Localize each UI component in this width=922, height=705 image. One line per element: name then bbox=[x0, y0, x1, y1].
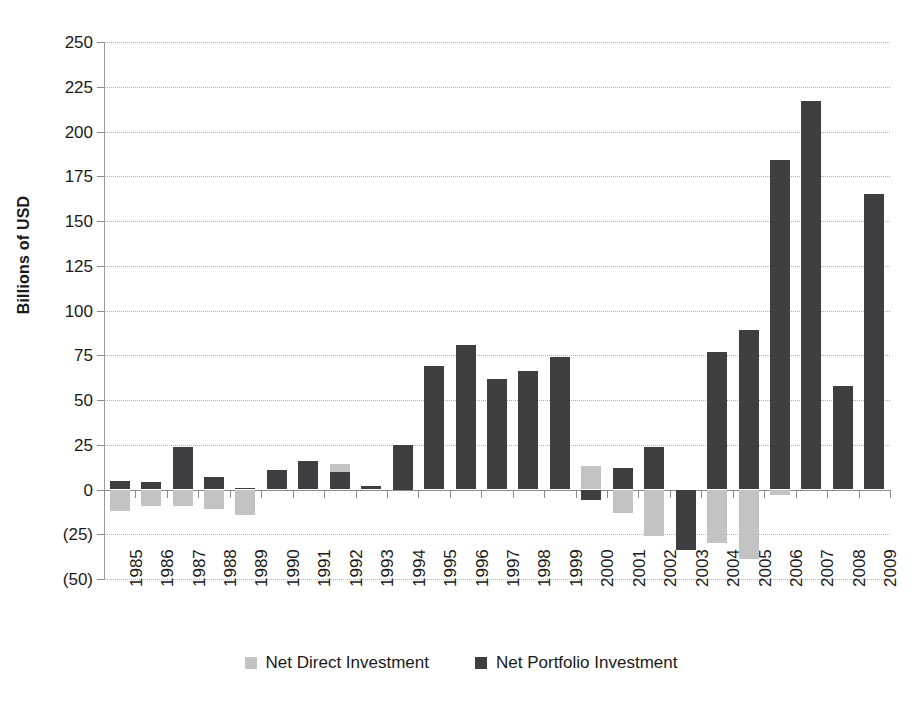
y-tick-label: 150 bbox=[65, 213, 93, 230]
bar-portfolio-1987 bbox=[173, 447, 193, 490]
x-tick-mark bbox=[230, 490, 231, 498]
bar-portfolio-1986 bbox=[141, 482, 161, 489]
bar-portfolio-1993 bbox=[361, 486, 381, 490]
plot-area: 2502252001751501251007550250(25)(50) bbox=[104, 42, 890, 579]
x-tick-mark bbox=[198, 490, 199, 498]
bar-portfolio-1988 bbox=[204, 477, 224, 490]
y-tick-mark bbox=[97, 42, 104, 43]
x-tick-mark bbox=[356, 490, 357, 498]
bar-direct-1986 bbox=[141, 490, 161, 506]
bar-portfolio-2009 bbox=[864, 194, 884, 489]
bar-portfolio-1994 bbox=[393, 445, 413, 490]
x-axis-label-1996: 1996 bbox=[474, 549, 491, 587]
bar-portfolio-1996 bbox=[456, 345, 476, 490]
x-axis-label-2007: 2007 bbox=[819, 549, 836, 587]
y-tick-mark bbox=[97, 311, 104, 312]
x-tick-mark bbox=[796, 490, 797, 498]
x-axis-label-1989: 1989 bbox=[253, 549, 270, 587]
x-axis-label-1999: 1999 bbox=[568, 549, 585, 587]
bar-portfolio-1998 bbox=[518, 371, 538, 489]
x-axis-label-1985: 1985 bbox=[128, 549, 145, 587]
y-tick-label: 50 bbox=[74, 392, 93, 409]
y-tick-mark bbox=[97, 87, 104, 88]
chart-legend: Net Direct InvestmentNet Portfolio Inves… bbox=[0, 653, 922, 673]
x-axis-label-2009: 2009 bbox=[882, 549, 899, 587]
bar-direct-1989 bbox=[235, 490, 255, 515]
y-tick-mark bbox=[97, 355, 104, 356]
bar-portfolio-1999 bbox=[550, 357, 570, 489]
y-tick-label: 100 bbox=[65, 302, 93, 319]
y-tick-mark bbox=[97, 490, 104, 491]
bar-direct-2000 bbox=[581, 466, 601, 489]
bar-portfolio-2007 bbox=[801, 101, 821, 489]
bar-direct-2006 bbox=[770, 490, 790, 495]
legend-item: Net Portfolio Investment bbox=[475, 653, 677, 673]
x-tick-mark bbox=[544, 490, 545, 498]
legend-label: Net Direct Investment bbox=[266, 653, 429, 673]
bar-portfolio-2004 bbox=[707, 352, 727, 490]
bar-direct-2002 bbox=[644, 490, 664, 537]
bar-direct-1987 bbox=[173, 490, 193, 506]
x-tick-mark bbox=[293, 490, 294, 498]
y-tick-label: (25) bbox=[63, 526, 93, 543]
y-tick-mark bbox=[97, 132, 104, 133]
x-tick-mark bbox=[701, 490, 702, 498]
y-tick-label: 25 bbox=[74, 436, 93, 453]
bar-direct-1985 bbox=[110, 490, 130, 511]
x-axis-label-1997: 1997 bbox=[505, 549, 522, 587]
bar-portfolio-2000 bbox=[581, 490, 601, 501]
x-tick-mark bbox=[764, 490, 765, 498]
gridline-250 bbox=[104, 42, 890, 43]
x-axis-label-1998: 1998 bbox=[536, 549, 553, 587]
x-tick-mark bbox=[638, 490, 639, 498]
x-axis-label-2001: 2001 bbox=[631, 549, 648, 587]
x-axis-label-1987: 1987 bbox=[191, 549, 208, 587]
bar-portfolio-1995 bbox=[424, 366, 444, 490]
x-tick-mark bbox=[827, 490, 828, 498]
y-tick-label: 250 bbox=[65, 34, 93, 51]
bar-portfolio-1997 bbox=[487, 379, 507, 490]
x-axis-label-2006: 2006 bbox=[788, 549, 805, 587]
x-axis-label-1990: 1990 bbox=[285, 549, 302, 587]
bar-direct-2004 bbox=[707, 490, 727, 544]
x-axis-label-2005: 2005 bbox=[757, 549, 774, 587]
x-axis-label-2003: 2003 bbox=[694, 549, 711, 587]
x-tick-mark bbox=[418, 490, 419, 498]
x-axis-label-1992: 1992 bbox=[348, 549, 365, 587]
x-tick-mark bbox=[261, 490, 262, 498]
x-axis-label-1995: 1995 bbox=[442, 549, 459, 587]
x-tick-mark bbox=[481, 490, 482, 498]
x-tick-mark bbox=[513, 490, 514, 498]
x-tick-mark bbox=[576, 490, 577, 498]
bar-portfolio-2001 bbox=[613, 468, 633, 489]
x-tick-mark bbox=[890, 490, 891, 498]
y-tick-label: 175 bbox=[65, 168, 93, 185]
x-tick-mark bbox=[859, 490, 860, 498]
y-tick-mark bbox=[97, 534, 104, 535]
bar-portfolio-2006 bbox=[770, 160, 790, 489]
x-axis-label-1993: 1993 bbox=[379, 549, 396, 587]
legend-swatch-icon bbox=[245, 657, 257, 669]
x-axis-label-1986: 1986 bbox=[159, 549, 176, 587]
x-tick-mark bbox=[733, 490, 734, 498]
y-tick-label: 225 bbox=[65, 78, 93, 95]
x-tick-mark bbox=[167, 490, 168, 498]
bar-portfolio-1985 bbox=[110, 481, 130, 490]
y-tick-mark bbox=[97, 266, 104, 267]
x-axis-label-1988: 1988 bbox=[222, 549, 239, 587]
bar-portfolio-2005 bbox=[739, 330, 759, 489]
y-axis-title: Billions of USD bbox=[15, 135, 33, 375]
bar-portfolio-2002 bbox=[644, 447, 664, 490]
x-axis-label-2000: 2000 bbox=[599, 549, 616, 587]
y-tick-label: 200 bbox=[65, 123, 93, 140]
y-tick-mark bbox=[97, 221, 104, 222]
bar-portfolio-1992 bbox=[330, 472, 350, 490]
bar-chart: Billions of USD 250225200175150125100755… bbox=[0, 0, 922, 705]
y-tick-mark bbox=[97, 579, 104, 580]
bar-direct-2001 bbox=[613, 490, 633, 513]
y-tick-label: 125 bbox=[65, 257, 93, 274]
x-axis-label-1994: 1994 bbox=[411, 549, 428, 587]
bar-portfolio-1989 bbox=[235, 488, 255, 490]
y-tick-label: (50) bbox=[63, 571, 93, 588]
x-tick-mark bbox=[450, 490, 451, 498]
